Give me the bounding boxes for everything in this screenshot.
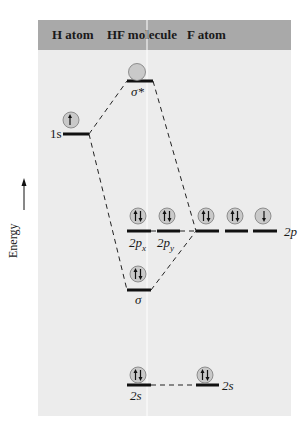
orbital-circles <box>63 64 271 384</box>
label-hf-2px: 2px <box>129 235 146 253</box>
energy-axis-label: Energy <box>6 224 21 258</box>
label-h-1s: 1s <box>50 126 62 142</box>
energy-levels <box>63 81 277 385</box>
energy-arrow-icon <box>22 178 27 210</box>
label-hf-2s: 2s <box>130 388 142 404</box>
correlation-lines <box>89 81 196 385</box>
label-f-2s: 2s <box>222 378 234 394</box>
mo-diagram <box>0 0 305 435</box>
label-hf-2px-main: 2p <box>129 235 142 250</box>
label-f-2p: 2p <box>284 224 297 240</box>
label-hf-2py-main: 2p <box>157 235 170 250</box>
label-h-1s-text: 1s <box>50 126 62 141</box>
label-sigma: σ <box>135 292 141 308</box>
label-hf-2py-sub: y <box>170 243 174 253</box>
label-hf-2px-sub: x <box>142 243 146 253</box>
label-sigma-star: σ* <box>131 84 144 100</box>
label-hf-2py: 2py <box>157 235 174 253</box>
